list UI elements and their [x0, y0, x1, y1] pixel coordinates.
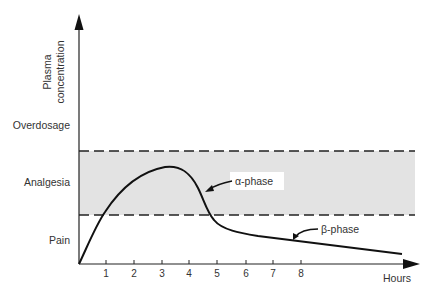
analgesia-label: Analgesia — [24, 176, 70, 188]
tick-label-2: 2 — [131, 268, 137, 279]
y-axis-title-line1: Plasma — [41, 54, 53, 89]
tick-label-4: 4 — [186, 268, 192, 279]
x-axis-arrow-icon — [403, 259, 420, 269]
tick-label-1: 1 — [103, 268, 109, 279]
y-axis-arrow-icon — [75, 14, 84, 30]
pharmacokinetic-diagram: 1 2 3 4 5 6 7 8 α-phase β-phase Overdosa… — [0, 0, 434, 294]
tick-label-7: 7 — [270, 268, 276, 279]
x-tick-labels: 1 2 3 4 5 6 7 8 — [103, 268, 304, 279]
tick-label-8: 8 — [298, 268, 304, 279]
y-axis-title: Plasma concentration — [41, 40, 66, 103]
beta-phase-label: β-phase — [321, 223, 359, 235]
overdosage-label: Overdosage — [13, 119, 70, 131]
tick-label-6: 6 — [243, 268, 249, 279]
tick-label-5: 5 — [214, 268, 220, 279]
alpha-phase-label: α-phase — [235, 175, 273, 187]
y-axis-title-line2: concentration — [54, 40, 66, 103]
pain-label: Pain — [49, 234, 70, 246]
x-axis-title: Hours — [383, 272, 411, 284]
tick-label-3: 3 — [159, 268, 165, 279]
